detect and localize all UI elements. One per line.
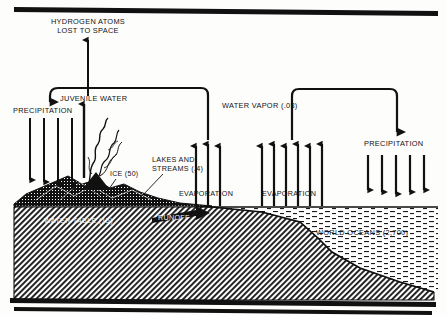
lakes-streams-label-line2: STREAMS (.4)	[152, 164, 203, 173]
hydrologic-cycle-figure: HYDROGEN ATOMS LOST TO SPACE PRECIPITATI…	[0, 0, 446, 315]
juvenile-water-label: JUVENILE WATER	[60, 94, 127, 103]
lakes-streams-leader-line	[142, 174, 163, 196]
top-border-bar	[14, 7, 438, 16]
right-circulation-bracket	[292, 89, 397, 140]
lakes-streams-label-line1: LAKES AND	[152, 155, 195, 164]
precipitation-right-label: PRECIPITATION	[364, 139, 423, 148]
diagram-canvas: HYDROGEN ATOMS LOST TO SPACE PRECIPITATI…	[0, 0, 446, 315]
evaporation-right-label: EVAPORATION	[262, 189, 316, 198]
runoff-label: RUNOFF	[158, 213, 190, 222]
water-vapor-label: WATER VAPOR (.03)	[222, 101, 298, 110]
hydrogen-loss-label-line1: HYDROGEN ATOMS	[51, 17, 125, 26]
precipitation-left-arrows	[30, 118, 72, 186]
precipitation-left-label: PRECIPITATION	[13, 106, 72, 115]
water-table-label: WATER TABLE (15)	[44, 216, 113, 225]
world-oceans-label: WORLD OCEANS (2,700)	[316, 228, 408, 237]
precipitation-right-arrows	[368, 155, 424, 194]
hydrogen-loss-label-line2: LOST TO SPACE	[57, 26, 119, 35]
ice-label: ICE (50)	[110, 170, 138, 178]
evaporation-center-label: EVAPORATION	[179, 189, 233, 198]
